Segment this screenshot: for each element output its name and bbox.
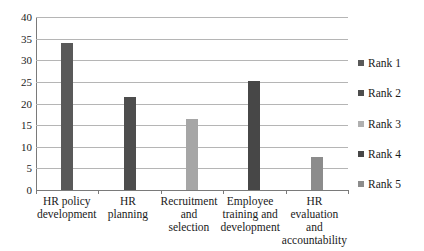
legend-label: Rank 5 (368, 178, 401, 190)
legend-swatch-icon (358, 60, 364, 66)
bar (248, 81, 260, 190)
legend-label: Rank 3 (368, 118, 401, 130)
bar (61, 43, 73, 190)
bar (186, 119, 198, 190)
bar (311, 157, 323, 190)
legend-swatch-icon (358, 121, 364, 127)
legend-swatch-icon (358, 90, 364, 96)
x-axis-label-line: HR planning (98, 195, 157, 221)
y-tick-label: 25 (4, 77, 32, 88)
x-axis-label-line: HR evaluation (282, 195, 347, 221)
x-axis-category-label: Recruitmentand selection (158, 193, 219, 251)
x-axis-label-line: development (37, 208, 96, 221)
y-tick-label: 10 (4, 142, 32, 153)
x-axis-label-line: and selection (159, 208, 218, 234)
x-axis-label-line: HR policy (37, 195, 96, 208)
legend-label: Rank 1 (368, 57, 401, 69)
x-axis-tick (348, 190, 349, 194)
legend-item[interactable]: Rank 5 (358, 178, 424, 190)
x-axis-label-line: Employee (220, 195, 279, 208)
x-axis-label-line: development (220, 221, 279, 234)
y-axis-labels: 0510152025303540 (0, 17, 32, 190)
legend-label: Rank 4 (368, 148, 401, 160)
chart-legend: Rank 1Rank 2Rank 3Rank 4Rank 5 (358, 17, 424, 190)
x-axis-category-label: HR planning (97, 193, 158, 251)
x-axis-category-label: HR policydevelopment (36, 193, 97, 251)
y-tick-label: 30 (4, 55, 32, 66)
gridline (36, 82, 348, 83)
x-axis-label-line: accountability (282, 234, 347, 247)
legend-swatch-icon (358, 151, 364, 157)
y-tick-label: 20 (4, 99, 32, 110)
x-axis-label-line: and (282, 221, 347, 234)
x-axis-labels: HR policydevelopmentHR planningRecruitme… (36, 193, 348, 251)
plot-area (36, 17, 348, 190)
y-tick-label: 5 (4, 163, 32, 174)
y-tick-label: 35 (4, 34, 32, 45)
legend-item[interactable]: Rank 4 (358, 148, 424, 160)
x-axis-label-line: training and (220, 208, 279, 221)
legend-item[interactable]: Rank 1 (358, 57, 424, 69)
gridline (36, 17, 348, 18)
bar (124, 97, 136, 190)
x-axis-category-label: HR evaluationandaccountability (281, 193, 348, 251)
legend-item[interactable]: Rank 2 (358, 87, 424, 99)
x-axis-category-label: Employeetraining anddevelopment (219, 193, 280, 251)
gridline (36, 190, 348, 191)
y-tick-label: 0 (4, 185, 32, 196)
gridline (36, 60, 348, 61)
gridline (36, 104, 348, 105)
x-axis-label-line: Recruitment (159, 195, 218, 208)
legend-label: Rank 2 (368, 87, 401, 99)
legend-swatch-icon (358, 181, 364, 187)
y-tick-label: 15 (4, 120, 32, 131)
legend-item[interactable]: Rank 3 (358, 118, 424, 130)
y-tick-label: 40 (4, 12, 32, 23)
bar-chart: 0510152025303540 HR policydevelopmentHR … (0, 0, 424, 251)
gridline (36, 39, 348, 40)
